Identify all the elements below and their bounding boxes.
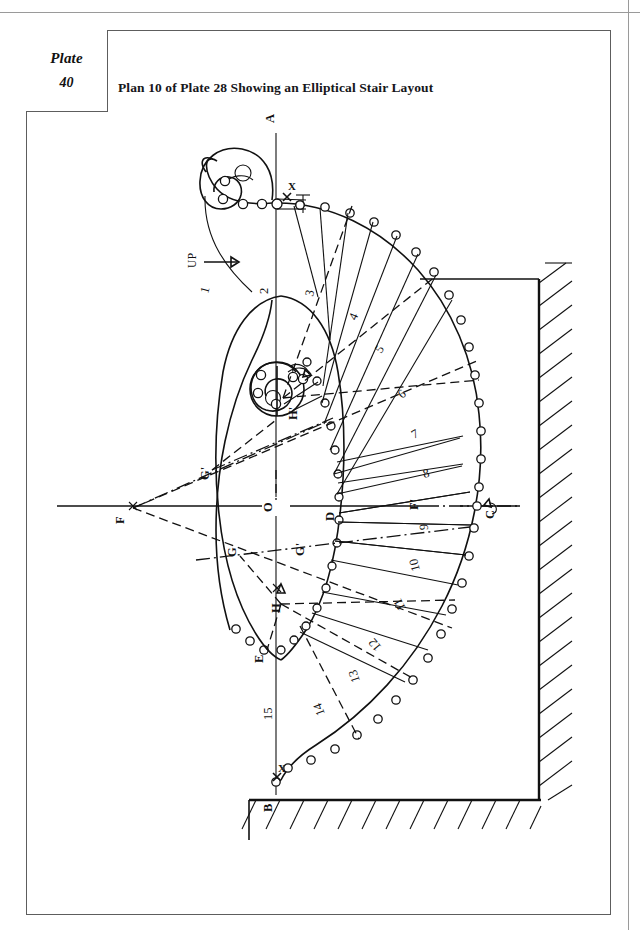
label-E-text: E	[252, 655, 266, 663]
page-canvas: Plate 40 Plan 10 of Plate 28 Showing an …	[0, 0, 640, 930]
label-F-text: F	[113, 516, 127, 524]
label-A: A	[263, 114, 277, 123]
cross-mark-top-label: X	[288, 180, 296, 192]
label-H: H	[269, 603, 283, 613]
label-G-prime-lower-text: G'	[293, 543, 307, 556]
up-direction-arrow	[204, 257, 239, 267]
label-G-prime-upper: G'	[198, 467, 212, 480]
step-number-6: 6	[395, 387, 409, 402]
top-volute-scroll	[200, 148, 310, 292]
stair-plan-drawing: A B C D E F F' G G' G' H	[0, 0, 640, 930]
label-O: O	[261, 502, 275, 512]
label-H-prime-text: H'	[286, 407, 300, 420]
label-G-prime-lower: G'	[293, 543, 307, 556]
step-number-3: 3	[302, 289, 317, 298]
step-number-10: 10	[406, 557, 423, 573]
label-G: G	[225, 547, 239, 557]
step-number-7: 7	[409, 426, 421, 441]
label-G-text: G	[225, 547, 239, 557]
label-F-prime-text: F'	[407, 499, 421, 510]
step-number-15: 15	[261, 708, 275, 721]
step-number-1: 1	[197, 285, 212, 295]
label-G-prime-upper-text: G'	[198, 467, 212, 480]
label-F: F	[113, 516, 127, 524]
step-number-13: 13	[346, 668, 363, 684]
label-E: E	[252, 655, 266, 663]
step-number-14: 14	[310, 701, 328, 718]
step-number-9: 9	[417, 524, 431, 531]
cross-mark-bottom-label: X	[278, 762, 286, 774]
step-number-12: 12	[366, 635, 385, 654]
up-label: UP	[186, 252, 198, 268]
step-number-11: 11	[391, 596, 409, 613]
label-C-text: C	[483, 510, 497, 519]
label-B: B	[261, 804, 275, 812]
label-F-prime: F'	[407, 499, 421, 510]
label-A-text: A	[263, 114, 277, 123]
label-O-text: O	[261, 502, 275, 512]
wall-bottom	[242, 800, 541, 840]
label-H-prime: H'	[286, 407, 300, 420]
step-number-2: 2	[257, 288, 271, 294]
label-D: D	[323, 512, 337, 521]
label-D-text: D	[323, 512, 337, 521]
label-H-text: H	[269, 603, 283, 613]
tread-front-arcs	[334, 438, 471, 555]
label-B-text: B	[261, 804, 275, 812]
wall-right	[420, 263, 572, 800]
step-number-5: 5	[372, 343, 387, 356]
label-C: C	[483, 510, 497, 519]
step-number-4: 4	[346, 310, 362, 322]
